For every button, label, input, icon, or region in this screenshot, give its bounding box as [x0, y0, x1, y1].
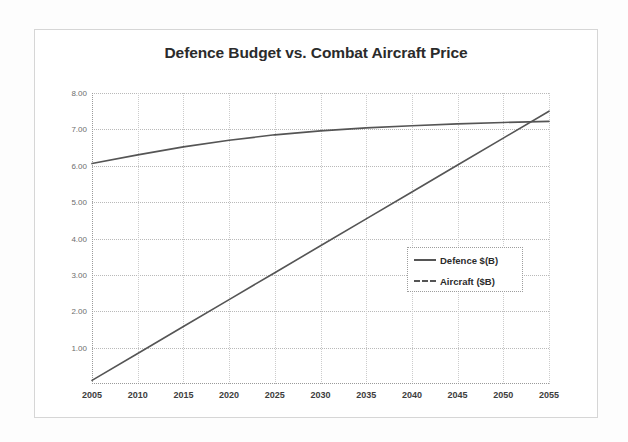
x-tick-label: 2025: [265, 390, 285, 400]
x-tick-label: 2010: [128, 390, 148, 400]
x-tick-label: 2055: [539, 390, 559, 400]
y-tick-label: 6.00: [71, 161, 87, 170]
gridline-x: [549, 93, 550, 384]
legend-line-swatch-defence: [414, 259, 436, 261]
chart-legend[interactable]: Defence $(B) Aircraft ($B): [407, 247, 523, 292]
y-tick-label: 5.00: [71, 198, 87, 207]
figure-canvas: Defence Budget vs. Combat Aircraft Price…: [0, 0, 628, 442]
y-tick-label: 4.00: [71, 234, 87, 243]
y-tick-label: 3.00: [71, 270, 87, 279]
series-line-aircraft: [92, 121, 549, 163]
x-axis-tick-labels: 2005201020152020202520302035204020452050…: [92, 390, 549, 410]
y-tick-label: 8.00: [71, 89, 87, 98]
x-tick-label: 2035: [356, 390, 376, 400]
legend-item-aircraft[interactable]: Aircraft ($B): [414, 271, 495, 291]
y-axis-tick-labels: 1.002.003.004.005.006.007.008.00: [35, 93, 87, 384]
y-tick-label: 1.00: [71, 343, 87, 352]
legend-label-defence: Defence $(B): [440, 255, 498, 266]
x-tick-label: 2045: [448, 390, 468, 400]
chart-title: Defence Budget vs. Combat Aircraft Price: [35, 44, 597, 62]
legend-line-swatch-aircraft: [414, 280, 436, 282]
x-tick-label: 2015: [173, 390, 193, 400]
y-tick-label: 7.00: [71, 125, 87, 134]
x-tick-label: 2040: [402, 390, 422, 400]
legend-label-aircraft: Aircraft ($B): [440, 276, 495, 287]
x-tick-label: 2030: [310, 390, 330, 400]
series-lines: [92, 93, 549, 384]
x-tick-label: 2050: [493, 390, 513, 400]
x-tick-label: 2005: [82, 390, 102, 400]
chart-frame: Defence Budget vs. Combat Aircraft Price…: [34, 29, 598, 418]
plot-area: [92, 93, 549, 384]
y-tick-label: 2.00: [71, 307, 87, 316]
legend-item-defence[interactable]: Defence $(B): [414, 250, 498, 270]
x-tick-label: 2020: [219, 390, 239, 400]
